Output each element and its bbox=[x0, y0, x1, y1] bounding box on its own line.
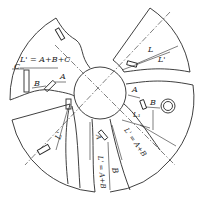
svg-text:L' = A+B: L' = A+B bbox=[122, 126, 148, 158]
svg-text:C: C bbox=[14, 62, 20, 71]
svg-text:L' = A+B+C: L' = A+B+C bbox=[19, 55, 70, 64]
svg-text:B: B bbox=[33, 79, 40, 88]
slot-right bbox=[140, 100, 147, 110]
ring-feature bbox=[161, 99, 175, 113]
svg-text:L: L bbox=[147, 45, 153, 54]
hub-circle bbox=[74, 67, 126, 119]
svg-text:B: B bbox=[149, 98, 156, 107]
sectored-disc-diagram: L' = A+B+C C B A L L' A B L₁ L' = A+B A … bbox=[0, 0, 203, 197]
slot-left bbox=[24, 70, 29, 92]
svg-text:A: A bbox=[59, 72, 66, 81]
svg-text:B: B bbox=[110, 166, 120, 174]
svg-text:A: A bbox=[94, 133, 103, 140]
svg-text:L' = A+B: L' = A+B bbox=[96, 154, 107, 189]
svg-text:L₁: L₁ bbox=[132, 111, 141, 119]
center-lines bbox=[25, 12, 175, 165]
svg-text:L': L' bbox=[157, 55, 166, 64]
slot-bottom-left bbox=[37, 144, 50, 154]
svg-text:L': L' bbox=[53, 131, 64, 142]
svg-text:A: A bbox=[131, 85, 138, 94]
